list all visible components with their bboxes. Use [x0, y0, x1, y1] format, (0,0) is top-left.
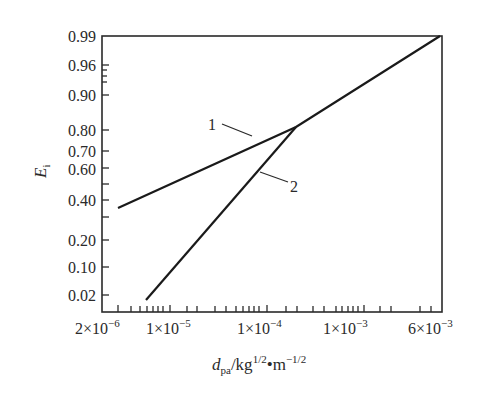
series-2-leader — [260, 172, 288, 182]
x-axis-title: dpa/kg1/2•m−1/2 — [212, 353, 306, 376]
y-axis-title: Ei — [31, 165, 52, 179]
chart: 0.99 0.96 0.90 0.80 0.70 0.60 0.40 0.20 … — [0, 0, 496, 406]
series-2-line — [146, 127, 296, 300]
y-tick-0.02: 0.02 — [68, 287, 96, 304]
y-tick-0.99: 0.99 — [68, 28, 96, 45]
series-1-label: 1 — [208, 116, 216, 133]
x-axis-ticks — [118, 305, 431, 312]
y-tick-0.96: 0.96 — [68, 57, 96, 74]
y-tick-labels: 0.99 0.96 0.90 0.80 0.70 0.60 0.40 0.20 … — [68, 28, 96, 304]
y-axis-ticks — [102, 65, 109, 295]
y-tick-0.90: 0.90 — [68, 87, 96, 104]
y-tick-0.60: 0.60 — [68, 161, 96, 178]
y-tick-0.40: 0.40 — [68, 192, 96, 209]
series-1-leader — [222, 124, 252, 136]
x-tick-1e-5: 1×10−5 — [146, 317, 191, 337]
plot-frame — [102, 36, 442, 312]
x-tick-1e-4: 1×10−4 — [237, 317, 282, 337]
series-1-line — [118, 36, 440, 208]
y-tick-0.20: 0.20 — [68, 232, 96, 249]
series-2-label: 2 — [290, 178, 298, 195]
x-tick-6e-3: 6×10−3 — [408, 317, 453, 337]
y-tick-0.80: 0.80 — [68, 122, 96, 139]
y-tick-0.70: 0.70 — [68, 143, 96, 160]
x-tick-labels: 2×10−6 1×10−5 1×10−4 1×10−3 6×10−3 — [75, 317, 453, 337]
y-tick-0.10: 0.10 — [68, 259, 96, 276]
x-tick-1e-3: 1×10−3 — [323, 317, 368, 337]
x-tick-2e-6: 2×10−6 — [75, 317, 120, 337]
